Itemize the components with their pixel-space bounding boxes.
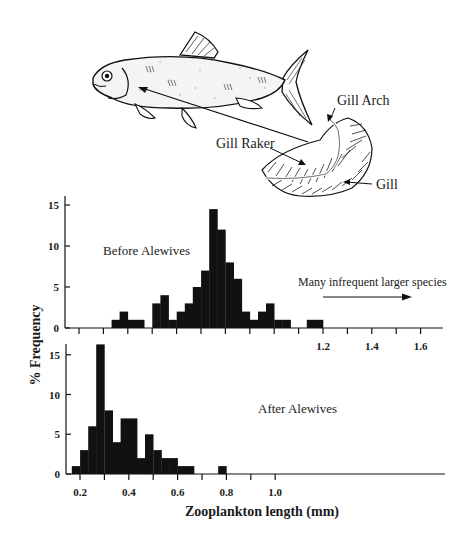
histogram-bar (120, 312, 129, 328)
histogram-bar (80, 450, 89, 474)
histogram-bar (88, 426, 97, 474)
histogram-bar (242, 312, 251, 328)
chart-after-alewives: 051015 0.20.40.60.81.0 After Alewives (49, 344, 445, 498)
histogram-bar (258, 312, 267, 328)
x-tick-label: 0.8 (220, 486, 234, 498)
histogram-bar (218, 466, 227, 474)
histogram-bar (160, 295, 169, 328)
histogram-bar (226, 262, 235, 328)
bars (72, 344, 227, 474)
x-tick-label: 1.0 (268, 486, 282, 498)
chart-before-alewives: 051015 1.21.41.6 Before Alewives Many in… (48, 196, 447, 352)
x-tick-label: 1.4 (365, 340, 379, 352)
x-tick-label: 1.6 (414, 340, 428, 352)
histogram-bar (177, 312, 186, 328)
histogram-bar (169, 458, 178, 474)
y-tick-label: 0 (54, 322, 60, 334)
gill-illustration (262, 108, 372, 196)
histogram-bar (113, 442, 122, 474)
y-tick-label: 15 (48, 199, 60, 211)
gill-raker-label: Gill Raker (216, 136, 275, 151)
gill-arch-label: Gill Arch (337, 93, 390, 108)
histogram-bar (153, 450, 162, 474)
arrow-right-icon (323, 294, 412, 301)
histogram-bar (161, 458, 170, 474)
fish-illustration (93, 32, 312, 142)
chart-title: Before Alewives (103, 243, 190, 258)
histogram-bar (178, 466, 187, 474)
histogram-bar (72, 466, 81, 474)
histogram-bar (145, 434, 154, 474)
histogram-bar (185, 303, 194, 328)
histogram-bar (136, 320, 145, 328)
histogram-bar (129, 418, 138, 474)
histogram-bar (186, 466, 195, 474)
histogram-bar (274, 320, 283, 328)
histogram-bar (137, 458, 146, 474)
x-ticks: 0.20.40.60.81.0 (73, 474, 282, 498)
histogram-bar (96, 344, 105, 474)
y-tick-label: 10 (48, 240, 60, 252)
histogram-bar (217, 230, 226, 328)
x-tick-label: 1.2 (316, 340, 330, 352)
histogram-bar (282, 320, 291, 328)
histogram-bar (201, 271, 210, 328)
y-tick-label: 5 (54, 281, 60, 293)
y-tick-label: 10 (49, 389, 61, 401)
histogram-bar (209, 209, 218, 328)
bars (112, 209, 324, 328)
histogram-bar (193, 287, 202, 328)
x-tick-label: 0.6 (171, 486, 185, 498)
y-tick-label: 0 (55, 468, 61, 480)
y-tick-label: 5 (55, 428, 61, 440)
gill-label: Gill (376, 177, 398, 192)
annotation-larger-species: Many infrequent larger species (298, 275, 447, 289)
x-tick-label: 0.4 (122, 486, 136, 498)
histogram-bar (128, 320, 136, 328)
histogram-bar (250, 320, 259, 328)
histogram-bar (121, 418, 130, 474)
figure: Gill Arch Gill Raker Gill % Frequency 05… (0, 0, 467, 542)
histogram-bar (307, 320, 316, 328)
y-ticks: 051015 (48, 199, 70, 334)
y-ticks: 051015 (49, 349, 71, 480)
y-axis-label: % Frequency (28, 304, 43, 385)
histogram-bar (266, 303, 275, 328)
histogram-bar (234, 279, 243, 328)
x-tick-label: 0.2 (73, 486, 87, 498)
x-ticks: 1.21.41.6 (79, 328, 428, 352)
histogram-bar (152, 303, 161, 328)
x-axis-label: Zooplankton length (mm) (185, 504, 339, 520)
histogram-bar (105, 410, 114, 474)
histogram-bar (315, 320, 324, 328)
y-tick-label: 15 (49, 349, 61, 361)
histogram-bar (168, 320, 177, 328)
histogram-bar (112, 320, 121, 328)
chart-title: After Alewives (258, 401, 337, 416)
